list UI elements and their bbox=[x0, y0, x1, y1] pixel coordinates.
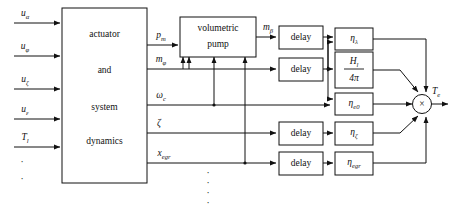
svg-text:pm: pm bbox=[155, 30, 166, 41]
routing-eta-lambda-to-multiplier bbox=[373, 39, 426, 92]
input-sub-1: φ bbox=[26, 45, 30, 52]
eta-egr-sub: egr bbox=[352, 161, 361, 168]
actuator-block-line-0: actuator bbox=[89, 29, 120, 39]
signal-label-m-beta: mβ bbox=[263, 22, 274, 33]
input-label-T-l: Tl bbox=[21, 132, 28, 143]
vertical-ellipsis-dot-2: · bbox=[206, 178, 209, 188]
input-ellipsis-dot-1: · bbox=[20, 157, 23, 167]
pump-output-sub: β bbox=[269, 26, 274, 33]
signal-line-m-phi bbox=[147, 57, 276, 69]
svg-text:mβ: mβ bbox=[263, 22, 274, 33]
input-sub-4: l bbox=[27, 136, 29, 143]
actuator-block-line-3: dynamics bbox=[86, 136, 123, 146]
svg-text:uα: uα bbox=[21, 8, 30, 19]
volumetric-pump-line-0: volumetric bbox=[197, 23, 238, 33]
input-label-u-zeta: uζ bbox=[21, 74, 30, 86]
input-sub-0: α bbox=[26, 12, 30, 19]
signal-label-m-phi: mφ bbox=[156, 54, 167, 65]
junction-dot-delay2 bbox=[327, 68, 330, 71]
vertical-ellipsis-dot-4: · bbox=[206, 198, 209, 208]
delay-label-1: delay bbox=[291, 32, 312, 42]
input-label-u-phi: uφ bbox=[21, 41, 30, 52]
volumetric-pump-line-1: pump bbox=[207, 39, 229, 49]
signal-sub-0: m bbox=[161, 34, 166, 41]
delay-label-2: delay bbox=[291, 64, 312, 74]
vertical-ellipsis-dot-3: · bbox=[206, 188, 209, 198]
block-diagram: uα uφ uζ uε Tl · · bbox=[0, 0, 451, 211]
eta-e0-sub: e0 bbox=[353, 102, 360, 109]
svg-text:ωc: ωc bbox=[156, 90, 166, 101]
actuator-block-line-1: and bbox=[98, 65, 112, 75]
svg-text:uφ: uφ bbox=[21, 41, 30, 52]
vertical-ellipsis: · · · · bbox=[206, 168, 209, 208]
routing-H-to-multiplier bbox=[373, 70, 418, 92]
signal-label-p-m: pm bbox=[155, 30, 166, 41]
svg-text:uε: uε bbox=[21, 104, 29, 115]
signal-sub-2: c bbox=[163, 94, 166, 101]
input-ellipsis: · · bbox=[20, 157, 23, 184]
H-numerator-sub: l bbox=[357, 60, 359, 67]
signal-sub-1: φ bbox=[163, 58, 167, 65]
routing-delay2 bbox=[323, 42, 333, 71]
signal-base-3: ζ bbox=[157, 118, 162, 129]
actuator-block-line-2: system bbox=[91, 102, 118, 112]
signal-label-x-egr: xegr bbox=[156, 148, 170, 159]
H-over-4pi-denominator: 4π bbox=[349, 73, 359, 83]
junction-dot-omega-c bbox=[212, 103, 215, 106]
input-label-u-alpha: uα bbox=[21, 8, 30, 19]
svg-text:ζ: ζ bbox=[157, 118, 162, 129]
input-ellipsis-dot-2: · bbox=[20, 174, 23, 184]
diagram-canvas: uα uφ uζ uε Tl · · bbox=[0, 0, 451, 211]
output-sub: e bbox=[437, 90, 440, 97]
routing-eta-zeta-to-multiplier bbox=[373, 116, 418, 133]
signal-line-x-egr bbox=[147, 57, 276, 165]
signal-sub-4: egr bbox=[162, 152, 171, 159]
output-label-T-e: Te bbox=[432, 86, 440, 97]
svg-text:Tl: Tl bbox=[21, 132, 28, 143]
input-label-u-epsilon: uε bbox=[21, 104, 29, 115]
multiplier-symbol: × bbox=[419, 99, 424, 109]
svg-text:Te: Te bbox=[432, 86, 440, 97]
junction-dot-x-egr bbox=[243, 161, 246, 164]
eta-lambda-sub: λ bbox=[354, 37, 358, 44]
routing-eta-egr-to-multiplier bbox=[373, 117, 426, 163]
svg-text:xegr: xegr bbox=[156, 148, 170, 159]
input-sub-3: ε bbox=[26, 108, 29, 115]
delay-label-4: delay bbox=[291, 158, 312, 168]
svg-text:mφ: mφ bbox=[156, 54, 167, 65]
vertical-ellipsis-dot-1: · bbox=[206, 168, 209, 178]
delay-label-3: delay bbox=[291, 128, 312, 138]
signal-label-omega-c: ωc bbox=[156, 90, 166, 101]
svg-text:uζ: uζ bbox=[21, 74, 30, 86]
signal-label-zeta: ζ bbox=[157, 118, 162, 129]
input-sub-2: ζ bbox=[26, 78, 30, 86]
